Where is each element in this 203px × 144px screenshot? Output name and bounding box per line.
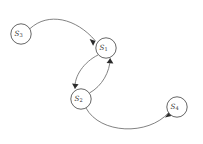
- node-s1[interactable]: S1: [96, 38, 116, 58]
- node-s3-label-subscript: 3: [19, 33, 22, 39]
- node-s1-label-subscript: 1: [104, 47, 107, 53]
- node-s3[interactable]: S3: [11, 24, 31, 44]
- edge-group: [30, 19, 171, 129]
- node-s2[interactable]: S2: [71, 89, 91, 109]
- edge-s3-s1-path: [30, 19, 96, 41]
- edge-s1-s2-path: [75, 55, 98, 89]
- node-s2-label-subscript: 2: [79, 98, 82, 104]
- state-diagram-canvas: S3 S1 S2 S4: [0, 0, 203, 144]
- edge-s2-to-s4[interactable]: [86, 108, 171, 129]
- state-diagram-svg: S3 S1 S2 S4: [0, 0, 203, 144]
- edge-s2-to-s1[interactable]: [90, 58, 114, 93]
- node-s4[interactable]: S4: [167, 97, 187, 117]
- edge-s3-to-s1[interactable]: [30, 19, 96, 46]
- edge-s2-s4-path: [86, 108, 169, 129]
- edge-s2-s1-path: [90, 58, 111, 93]
- node-group: S3 S1 S2 S4: [11, 24, 187, 117]
- edge-s2-s1-arrowhead: [107, 58, 114, 63]
- edge-s1-to-s2[interactable]: [72, 55, 98, 89]
- edge-s1-s2-arrowhead: [72, 84, 79, 89]
- node-s4-label-subscript: 4: [175, 106, 178, 112]
